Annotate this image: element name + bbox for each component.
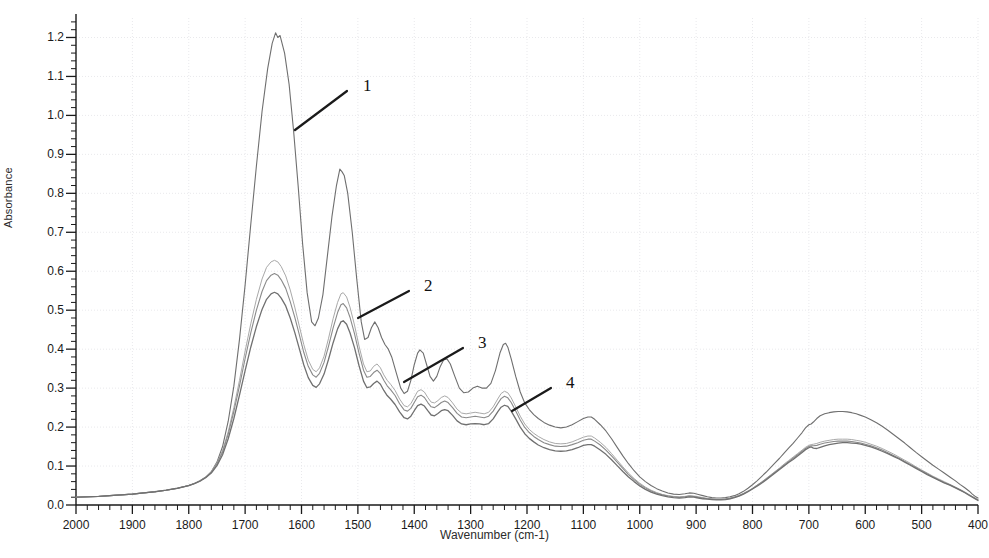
ftir-spectrum-plot: 0.00.10.20.30.40.50.60.70.80.91.01.11.22… [0,0,989,558]
chart-root: 0.00.10.20.30.40.50.60.70.80.91.01.11.22… [0,0,989,558]
y-tick-label: 1.2 [47,30,64,44]
annotation-leader-1 [295,91,347,130]
y-tick-label: 1.1 [47,69,64,83]
x-axis-title: Wavenumber (cm-1) [0,528,989,542]
y-tick-label: 0.4 [47,342,64,356]
annotation-label-2: 2 [424,276,433,295]
y-tick-label: 0.1 [47,459,64,473]
y-tick-label: 0.0 [47,498,64,512]
y-tick-label: 1.0 [47,108,64,122]
annotation-label-3: 3 [478,333,487,352]
annotation-leader-2 [358,291,409,318]
y-tick-label: 0.8 [47,186,64,200]
annotation-label-1: 1 [363,76,372,95]
y-tick-label: 0.5 [47,303,64,317]
y-tick-label: 0.9 [47,147,64,161]
annotation-leader-3 [404,348,463,382]
y-tick-label: 0.7 [47,225,64,239]
y-tick-label: 0.3 [47,381,64,395]
y-tick-label: 0.2 [47,420,64,434]
annotation-leader-4 [512,388,551,411]
y-axis-title: Absorbance [2,108,14,228]
y-tick-label: 0.6 [47,264,64,278]
annotation-label-4: 4 [566,373,575,392]
spectrum-curve-2 [76,260,978,499]
